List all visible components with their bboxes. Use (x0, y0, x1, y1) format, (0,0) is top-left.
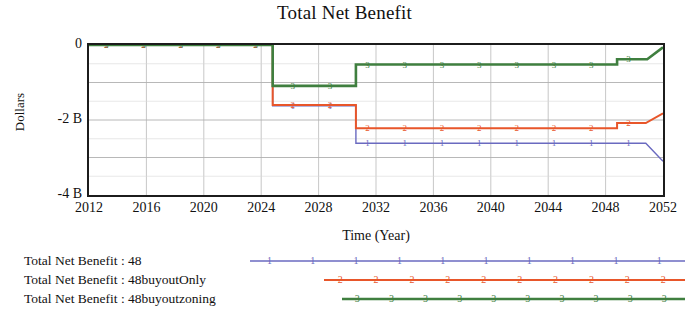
series-marker: 1 (626, 138, 631, 148)
svg-text:2: 2 (409, 274, 414, 285)
svg-text:2: 2 (553, 274, 558, 285)
x-tick-label: 2044 (534, 200, 562, 216)
x-tick-label: 2028 (305, 200, 333, 216)
legend-line-sample: 1111111111 (248, 252, 687, 270)
svg-text:1: 1 (657, 255, 662, 266)
svg-text:1: 1 (613, 255, 618, 266)
series-marker: 2 (365, 123, 370, 133)
x-tick-label: 2012 (75, 200, 103, 216)
series-marker: 3 (365, 60, 370, 70)
legend-entry-label: Total Net Benefit : 48 (0, 253, 242, 269)
x-tick-label: 2032 (362, 200, 390, 216)
series-marker: 2 (552, 123, 557, 133)
series-marker: 3 (589, 60, 594, 70)
y-tick-label: 0 (20, 36, 82, 52)
series-marker: 3 (216, 45, 221, 50)
series-marker: 1 (365, 138, 370, 148)
svg-text:1: 1 (570, 255, 575, 266)
svg-text:1: 1 (354, 255, 359, 266)
svg-text:1: 1 (440, 255, 445, 266)
svg-text:2: 2 (338, 274, 343, 285)
svg-text:3: 3 (662, 293, 667, 304)
svg-text:3: 3 (491, 293, 496, 304)
x-tick-label: 2024 (247, 200, 275, 216)
series-marker: 3 (104, 45, 109, 50)
x-tick-label: 2052 (649, 200, 677, 216)
x-tick-label: 2040 (477, 200, 505, 216)
x-tick-label: 2016 (132, 200, 160, 216)
svg-text:3: 3 (423, 293, 428, 304)
series-marker: 1 (402, 138, 407, 148)
x-tick-label: 2036 (419, 200, 447, 216)
svg-text:3: 3 (525, 293, 530, 304)
svg-text:2: 2 (625, 274, 630, 285)
legend-entry[interactable]: Total Net Benefit : 48buyoutzoning333333… (0, 290, 689, 308)
svg-text:1: 1 (267, 255, 272, 266)
svg-text:2: 2 (374, 274, 379, 285)
x-tick-label: 2048 (592, 200, 620, 216)
series-marker: 1 (514, 138, 519, 148)
svg-text:2: 2 (445, 274, 450, 285)
series-marker: 3 (291, 81, 296, 91)
series-marker: 3 (402, 60, 407, 70)
svg-text:3: 3 (389, 293, 394, 304)
svg-text:1: 1 (527, 255, 532, 266)
legend-entry[interactable]: Total Net Benefit : 481111111111 (0, 252, 689, 270)
svg-text:3: 3 (628, 293, 633, 304)
series-marker: 1 (552, 138, 557, 148)
plot-canvas: 1111111111111112222222222222223333333333… (89, 45, 663, 195)
series-marker: 1 (477, 138, 482, 148)
series-marker: 3 (552, 60, 557, 70)
series-marker: 3 (626, 54, 631, 64)
svg-text:1: 1 (483, 255, 488, 266)
series-marker: 1 (440, 138, 445, 148)
series-marker: 3 (328, 81, 333, 91)
series-marker: 2 (440, 123, 445, 133)
plot-area: 1111111111111112222222222222223333333333… (87, 43, 665, 197)
series-marker: 2 (477, 123, 482, 133)
svg-text:1: 1 (310, 255, 315, 266)
svg-text:3: 3 (457, 293, 462, 304)
series-marker: 3 (514, 60, 519, 70)
series-marker: 1 (589, 138, 594, 148)
x-tick-label: 2020 (190, 200, 218, 216)
series-marker: 3 (253, 45, 258, 50)
legend-entry-label: Total Net Benefit : 48buyoutzoning (0, 291, 334, 307)
series-marker: 3 (179, 45, 184, 50)
series-marker: 2 (328, 100, 333, 110)
legend-entry-label: Total Net Benefit : 48buyoutOnly (0, 272, 316, 288)
svg-text:1: 1 (397, 255, 402, 266)
chart-figure: Total Net Benefit Dollars 0-2 B-4 B 2012… (0, 0, 689, 318)
series-marker: 2 (589, 123, 594, 133)
svg-text:3: 3 (594, 293, 599, 304)
chart-legend: Total Net Benefit : 481111111111Total Ne… (0, 252, 689, 314)
svg-text:2: 2 (661, 274, 666, 285)
legend-line-sample: 3333333333 (340, 290, 687, 308)
legend-entry[interactable]: Total Net Benefit : 48buyoutOnly22222222… (0, 271, 689, 289)
series-marker: 3 (477, 60, 482, 70)
svg-text:3: 3 (355, 293, 360, 304)
svg-text:2: 2 (481, 274, 486, 285)
svg-text:2: 2 (589, 274, 594, 285)
series-marker: 2 (291, 100, 296, 110)
grid-lines (89, 45, 663, 195)
series-marker: 2 (514, 123, 519, 133)
x-axis-label: Time (Year) (87, 228, 665, 244)
svg-text:3: 3 (559, 293, 564, 304)
series-marker: 2 (626, 118, 631, 128)
legend-line-sample: 2222222222 (322, 271, 687, 289)
svg-text:2: 2 (517, 274, 522, 285)
chart-title: Total Net Benefit (0, 2, 689, 24)
series-marker: 3 (440, 60, 445, 70)
series-marker: 3 (141, 45, 146, 50)
y-tick-label: -4 B (20, 186, 82, 202)
y-tick-label: -2 B (20, 111, 82, 127)
series-marker: 2 (402, 123, 407, 133)
